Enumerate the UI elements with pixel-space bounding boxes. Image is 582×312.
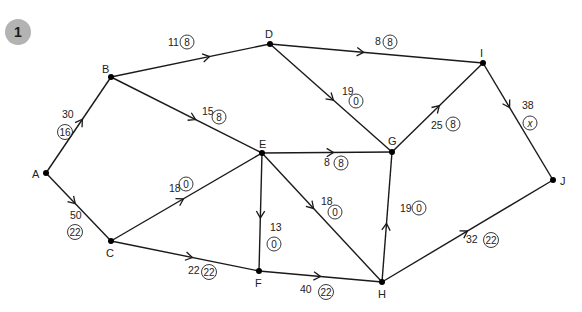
edge-line xyxy=(392,63,483,152)
flow-value: 0 xyxy=(332,207,338,218)
node-label: I xyxy=(480,47,483,59)
edge-G-I xyxy=(392,63,483,152)
edge-B-D xyxy=(111,44,270,77)
edge-line xyxy=(46,77,111,173)
node-dot xyxy=(267,41,273,47)
edge-H-G xyxy=(382,152,392,282)
edge-line xyxy=(259,153,262,271)
edge-capacity-label: 25 xyxy=(431,119,443,131)
node-C: C xyxy=(106,238,114,259)
flow-value: 22 xyxy=(485,235,497,246)
node-label: G xyxy=(388,135,397,147)
node-label: J xyxy=(560,175,566,187)
node-I: I xyxy=(480,47,486,66)
node-G: G xyxy=(388,135,397,155)
edge-capacity-label: 32 xyxy=(466,233,478,245)
edge-flow-label: 0 xyxy=(328,205,342,219)
node-dot xyxy=(108,238,114,244)
edge-capacity-label: 22 xyxy=(188,264,200,276)
flow-value: 8 xyxy=(450,119,456,130)
edge-flow-label: 0 xyxy=(267,237,281,251)
flow-value: 22 xyxy=(320,287,332,298)
node-label: E xyxy=(259,138,266,150)
node-label: A xyxy=(32,168,40,180)
flow-value: 22 xyxy=(69,227,81,238)
badge-label: 1 xyxy=(14,24,22,40)
node-dot xyxy=(480,60,486,66)
node-dot xyxy=(550,177,556,183)
edge-flow-label: 22 xyxy=(202,265,217,280)
edge-flow-label: 8 xyxy=(446,117,460,131)
edge-I-J xyxy=(483,63,553,180)
edge-line xyxy=(111,44,270,77)
network-flow-diagram: 1 ABCDEFGHIJ 301650221181588819018022228… xyxy=(0,0,582,312)
edge-capacity-label: 18 xyxy=(321,195,333,207)
arrow-chevron-icon xyxy=(75,119,82,127)
flow-value: 0 xyxy=(416,203,422,214)
edge-capacity-label: 30 xyxy=(62,108,74,120)
flow-value: 22 xyxy=(203,267,215,278)
edge-line xyxy=(483,63,553,180)
flow-value: 0 xyxy=(353,96,359,107)
edge-capacity-label: 11 xyxy=(168,36,179,48)
labels-layer: 3016502211815888190180222288130180402219… xyxy=(58,35,538,300)
node-dot xyxy=(43,170,49,176)
flow-value: 8 xyxy=(387,37,393,48)
edge-capacity-label: 40 xyxy=(300,283,312,295)
edge-H-J xyxy=(382,180,553,282)
edge-C-F xyxy=(111,241,259,271)
edge-line xyxy=(262,153,382,282)
edge-capacity-label: 19 xyxy=(400,202,412,214)
edge-A-B xyxy=(46,77,111,173)
flow-value: 8 xyxy=(338,158,344,169)
node-B: B xyxy=(102,63,114,80)
edge-line xyxy=(111,241,259,271)
edge-flow-label: 0 xyxy=(179,177,193,191)
edge-B-E xyxy=(111,77,262,153)
node-A: A xyxy=(32,168,49,180)
question-number-badge: 1 xyxy=(5,19,31,45)
edge-flow-label: 22 xyxy=(68,225,83,240)
node-dot xyxy=(379,279,385,285)
edge-flow-label: 16 xyxy=(58,125,73,140)
edge-flow-label: 22 xyxy=(319,285,334,300)
edge-line xyxy=(270,44,392,152)
edge-flow-label: 8 xyxy=(212,110,226,124)
edge-capacity-label: 8 xyxy=(324,156,330,168)
edge-C-E xyxy=(111,153,262,241)
flow-value: x xyxy=(527,118,534,129)
node-label: F xyxy=(255,277,262,289)
flow-value: 0 xyxy=(183,179,189,190)
node-dot xyxy=(256,268,262,274)
node-label: D xyxy=(265,28,273,40)
flow-value: 8 xyxy=(216,112,222,123)
edge-flow-label: 0 xyxy=(412,201,426,215)
edge-E-H xyxy=(262,153,382,282)
node-J: J xyxy=(550,175,566,187)
edge-capacity-label: 13 xyxy=(270,221,282,233)
flow-value: 0 xyxy=(271,239,277,250)
edge-flow-label: 8 xyxy=(383,35,397,49)
edges-layer xyxy=(46,44,553,282)
edge-flow-label: 22 xyxy=(484,233,499,248)
node-label: C xyxy=(106,247,114,259)
node-label: B xyxy=(102,63,109,75)
edge-line xyxy=(111,77,262,153)
edge-flow-label: x xyxy=(523,116,537,130)
edge-line xyxy=(262,152,392,153)
node-H: H xyxy=(378,279,386,300)
edge-F-H xyxy=(259,271,382,282)
edge-capacity-label: 38 xyxy=(522,99,534,111)
node-F: F xyxy=(255,268,262,289)
edge-E-F xyxy=(256,153,264,271)
edge-line xyxy=(111,153,262,241)
edge-capacity-label: 50 xyxy=(70,209,82,221)
flow-value: 16 xyxy=(59,127,71,138)
edge-D-G xyxy=(270,44,392,152)
node-label: H xyxy=(378,288,386,300)
node-dot xyxy=(389,149,395,155)
node-dot xyxy=(259,150,265,156)
edge-flow-label: 0 xyxy=(349,94,363,108)
flow-value: 8 xyxy=(184,37,190,48)
edge-line xyxy=(382,152,392,282)
